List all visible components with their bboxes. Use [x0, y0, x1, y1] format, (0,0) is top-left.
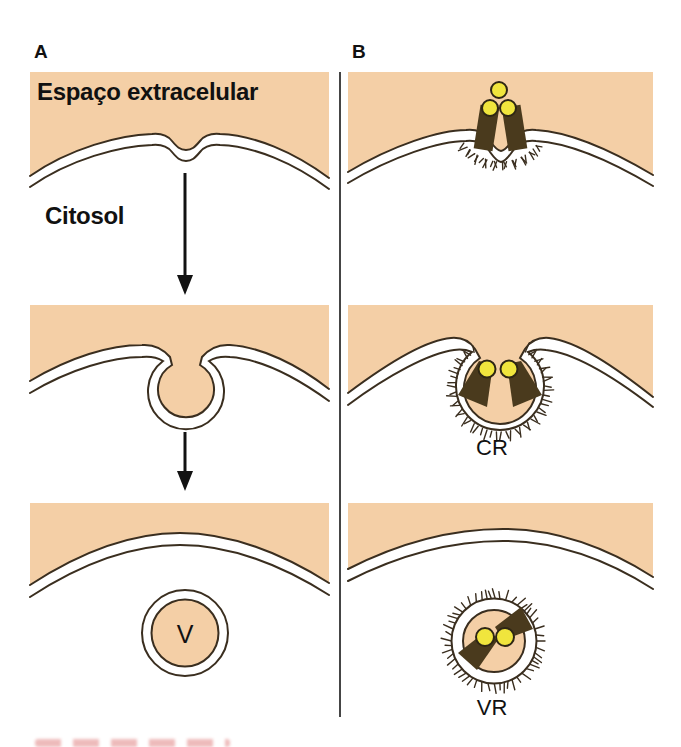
clathrin-spike: [443, 649, 453, 652]
clathrin-spike: [491, 161, 493, 166]
arrow-head: [177, 275, 193, 295]
clathrin-spike: [468, 597, 471, 606]
clathrin-spike: [456, 410, 462, 417]
panel-b-step2-coated-pit: [348, 305, 653, 440]
clathrin-spike: [485, 590, 487, 599]
clathrin-spike: [444, 625, 454, 629]
clathrin-spike: [531, 419, 540, 424]
clathrin-spike: [544, 386, 551, 387]
arrow-down-icon: [165, 428, 205, 496]
panel-b-label: B: [352, 42, 366, 61]
clathrin-spike: [462, 603, 467, 609]
clathrin-spike: [533, 618, 538, 623]
clathrin-spike: [530, 664, 540, 668]
clathrin-spike: [473, 426, 478, 433]
panel-b-step3-coated-vesicle: [348, 503, 653, 703]
clathrin-spike: [541, 404, 548, 406]
clathrin-spike: [525, 155, 526, 161]
clathrin-spike: [462, 676, 469, 681]
clathrin-spike: [536, 647, 544, 651]
clathrin-spike: [449, 621, 455, 623]
ligand: [479, 361, 496, 378]
clathrin-spike: [474, 680, 476, 688]
clathrin-spike: [492, 589, 495, 599]
clathrin-spike: [482, 592, 483, 601]
clathrin-spike: [532, 660, 538, 664]
clathrin-spike: [454, 669, 462, 674]
clathrin-spike: [530, 610, 537, 618]
clathrin-spike: [453, 613, 460, 615]
clathrin-spike: [467, 678, 473, 685]
clathrin-spike: [447, 396, 457, 397]
clathrin-spike: [462, 417, 468, 426]
arrow-head: [177, 471, 193, 491]
ligand: [496, 628, 514, 646]
ligand: [501, 361, 518, 378]
clathrin-spike: [448, 659, 456, 666]
panel-a-step2-invagination: [30, 305, 329, 440]
clathrin-spike: [515, 429, 520, 434]
panel-a-step3-vesicle: [30, 503, 329, 715]
clathrin-spike: [451, 405, 460, 406]
clathrin-spike: [450, 392, 456, 395]
arrow-down-icon: [165, 170, 205, 300]
clathrin-spike: [455, 607, 463, 612]
panel-a-label: A: [34, 42, 48, 61]
clathrin-spike: [468, 154, 475, 158]
panel-b-step1-receptor-binding: [348, 72, 653, 222]
ligand: [482, 100, 498, 116]
clathrin-spike: [506, 590, 509, 600]
endocytosis-figure: A Espaço extracelular Citosol V B: [0, 0, 681, 747]
clathrin-spike: [448, 654, 454, 659]
clathrin-spike: [447, 385, 456, 387]
clathrin-spike: [481, 428, 483, 434]
clathrin-spike: [522, 673, 531, 679]
clathrin-spike: [544, 390, 554, 391]
clathrin-spike: [512, 680, 515, 690]
clathrin-spike: [441, 638, 451, 641]
clathrin-spike: [517, 598, 525, 605]
ligand: [500, 100, 516, 116]
ligand: [476, 628, 494, 646]
clathrin-spike: [536, 146, 542, 147]
ligand: [491, 82, 507, 98]
clathrin-spike: [517, 677, 521, 682]
clathrin-spike: [476, 594, 477, 603]
clathrin-spike: [520, 427, 521, 437]
coated-pit-label: CR: [476, 437, 508, 459]
clathrin-spike: [494, 684, 496, 694]
coated-vesicle-label: VR: [477, 697, 508, 719]
extracellular-space-label: Espaço extracelular: [37, 80, 258, 104]
clathrin-spike: [460, 143, 464, 148]
clathrin-spike: [448, 616, 458, 619]
panel-divider: [339, 72, 341, 717]
extracellular-space-fill: [348, 503, 653, 577]
clathrin-spike: [479, 159, 483, 163]
extracellular-space-fill: [30, 503, 329, 585]
clathrin-spike: [453, 664, 459, 669]
clathrin-spike: [536, 635, 544, 636]
vesicle-label: V: [177, 622, 194, 647]
clathrin-spike: [543, 395, 549, 396]
clathrin-spike: [453, 401, 458, 406]
clathrin-spike: [543, 399, 552, 402]
cropped-figure-caption: [35, 739, 230, 747]
cytosol-label: Citosol: [45, 204, 124, 228]
clathrin-spike: [535, 626, 544, 629]
clathrin-spike: [535, 653, 542, 658]
clathrin-spike: [459, 673, 466, 677]
clathrin-spike: [512, 597, 517, 602]
clathrin-spike: [539, 408, 545, 413]
clathrin-spike: [489, 591, 492, 598]
